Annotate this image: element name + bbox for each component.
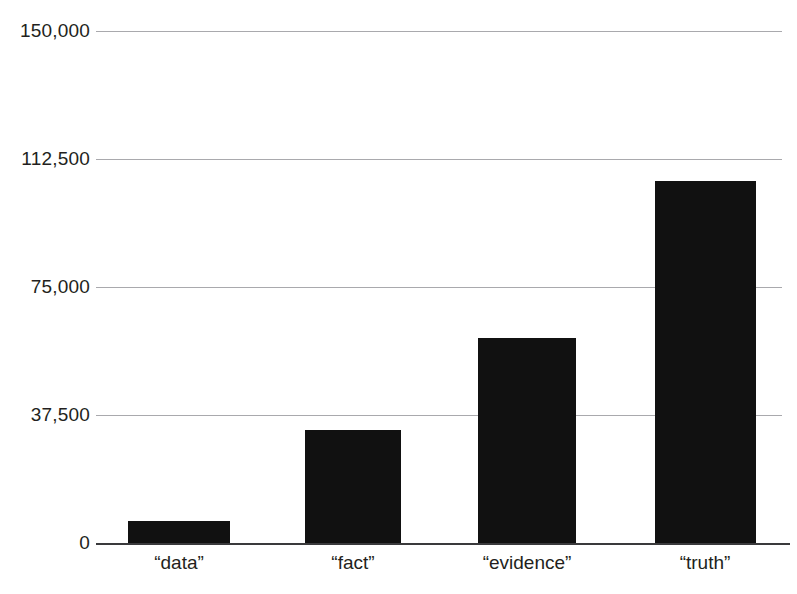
bars-layer [0,0,797,594]
x-tick-label-fact: “fact” [331,552,374,574]
x-tick-label-truth: “truth” [680,552,731,574]
bar-evidence[interactable] [478,338,576,543]
bar-chart: 150,000 112,500 75,000 37,500 0 “data” “… [0,0,797,594]
x-tick-label-data: “data” [154,552,204,574]
bar-data[interactable] [128,521,230,543]
x-tick-label-evidence: “evidence” [483,552,572,574]
bar-truth[interactable] [655,181,756,543]
bar-fact[interactable] [305,430,401,543]
